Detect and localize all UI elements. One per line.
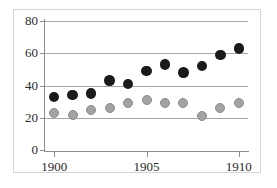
data-point bbox=[197, 61, 207, 71]
data-point bbox=[123, 79, 133, 89]
data-point bbox=[68, 110, 78, 120]
data-point bbox=[49, 108, 59, 118]
data-point bbox=[86, 88, 96, 98]
data-point bbox=[160, 98, 170, 108]
data-point bbox=[142, 95, 152, 105]
data-point bbox=[197, 111, 207, 121]
plot-area bbox=[45, 21, 248, 150]
data-point bbox=[67, 90, 77, 100]
data-point bbox=[215, 103, 225, 113]
data-point bbox=[215, 50, 225, 60]
data-point bbox=[105, 103, 115, 113]
data-point bbox=[49, 92, 59, 102]
x-axis-tick-label: 1905 bbox=[122, 160, 172, 173]
x-axis-tick-label: 1900 bbox=[29, 160, 79, 173]
data-point bbox=[123, 98, 133, 108]
data-point bbox=[104, 75, 114, 85]
data-point bbox=[234, 43, 244, 53]
data-point bbox=[234, 98, 244, 108]
data-point bbox=[178, 67, 188, 77]
chart-container: 020406080 190019051910 bbox=[0, 0, 277, 188]
data-point bbox=[160, 59, 170, 69]
data-point bbox=[178, 98, 188, 108]
x-axis-tick-label: 1910 bbox=[214, 160, 264, 173]
data-point bbox=[86, 105, 96, 115]
data-point bbox=[141, 66, 151, 76]
